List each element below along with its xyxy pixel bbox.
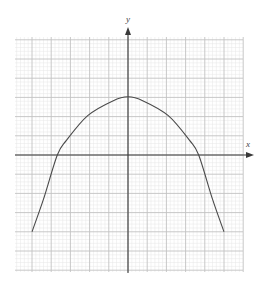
graph-plot [0,0,264,287]
x-axis-label: x [246,139,250,149]
y-axis-label: y [126,14,130,24]
